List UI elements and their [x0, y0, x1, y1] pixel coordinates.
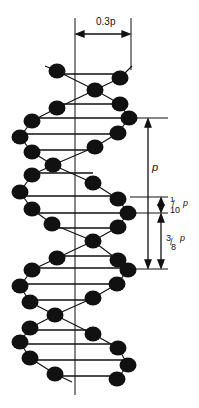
rise-arrowhead-top	[158, 198, 164, 205]
rise-variable: p	[183, 199, 188, 208]
nucleotide-ball	[12, 185, 29, 200]
nucleotide-ball	[22, 295, 39, 310]
nucleotide-ball	[24, 168, 41, 183]
nucleotide-ball	[24, 263, 41, 278]
nucleotide-ball	[85, 176, 102, 191]
nucleotide-ball	[22, 351, 39, 366]
nucleotide-ball	[47, 308, 64, 323]
nucleotide-ball	[112, 97, 129, 112]
nucleotide-ball	[44, 217, 61, 232]
nucleotide-ball	[120, 206, 137, 221]
groove-denominator: 8	[171, 243, 176, 252]
dna-helix-diagram	[0, 0, 199, 408]
nucleotide-ball	[110, 220, 127, 235]
nucleotide-ball	[109, 277, 126, 292]
nucleotide-ball	[24, 145, 41, 160]
nucleotide-ball	[49, 101, 66, 116]
nucleotide-ball	[24, 114, 41, 129]
nucleotide-ball	[12, 335, 29, 350]
width-arrowhead-right	[122, 31, 130, 37]
width-label-text: 0.3p	[96, 16, 115, 27]
nucleotide-ball	[110, 192, 127, 207]
nucleotide-ball	[12, 279, 29, 294]
nucleotide-ball	[87, 83, 104, 98]
nucleotide-ball	[12, 130, 29, 145]
width-arrowhead-left	[76, 31, 84, 37]
nucleotide-ball	[49, 251, 66, 266]
nucleotide-ball	[112, 71, 129, 86]
groove-variable: p	[180, 234, 185, 243]
nucleotide-ball	[110, 126, 127, 141]
nucleotide-ball	[85, 291, 102, 306]
nucleotide-ball	[109, 372, 126, 387]
nucleotide-ball	[24, 202, 41, 217]
nucleotide-ball	[85, 327, 102, 342]
nucleotide-ball	[121, 111, 138, 126]
nucleotide-ball	[45, 158, 62, 173]
nucleotide-ball	[110, 341, 127, 356]
rise-denominator: 10	[170, 206, 180, 215]
nucleotide-ball	[49, 64, 66, 79]
width-label: 0.3p	[96, 17, 115, 27]
nucleotide-ball	[22, 321, 39, 336]
nucleotide-ball	[47, 367, 64, 382]
groove-arrowhead-top	[158, 214, 164, 222]
nucleotide-ball	[120, 358, 137, 373]
nucleotide-ball	[120, 263, 137, 278]
nucleotide-ball	[87, 140, 104, 155]
pitch-label: p	[152, 162, 158, 173]
nucleotide-ball	[85, 234, 102, 249]
groove-arrowhead-bottom	[158, 260, 164, 268]
rise-arrowhead-bottom	[158, 205, 164, 212]
pitch-arrowhead-top	[145, 119, 151, 127]
pitch-arrowhead-bottom	[145, 260, 151, 268]
